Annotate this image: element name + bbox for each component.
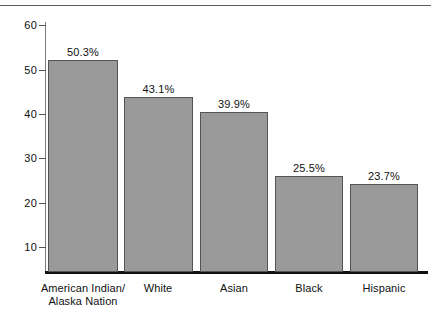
x-label-hispanic: Hispanic [339,282,429,295]
bar-white [124,97,193,272]
bar-value-white: 43.1% [124,83,193,95]
y-tick-label-10: 10 [3,242,37,253]
y-tick-label-30: 30 [3,153,37,164]
y-tick-20 [39,203,46,204]
y-tick-60 [39,25,46,26]
y-tick-label-60-wrap: 60 [0,20,37,31]
y-tick-30 [39,158,46,159]
y-tick-label-50-wrap: 50 [0,65,37,76]
bar-hispanic [350,184,418,272]
y-tick-label-20-wrap: 20 [0,198,37,209]
y-tick-label-60: 60 [3,20,37,31]
bar-black [275,176,343,272]
bar-american-indian-alaska-nation [48,60,118,272]
y-axis-line [45,22,46,273]
y-tick-label-30-wrap: 30 [0,153,37,164]
y-tick-50 [39,70,46,71]
x-label-line-2: Alaska Nation [33,295,133,308]
bar-value-hispanic: 23.7% [350,170,418,182]
bar-value-american-indian-alaska-nation: 50.3% [48,46,118,58]
y-tick-label-20: 20 [3,198,37,209]
bar-value-asian: 39.9% [200,98,268,110]
y-tick-label-10-wrap: 10 [0,242,37,253]
y-tick-label-40: 40 [3,109,37,120]
y-tick-label-50: 50 [3,65,37,76]
bar-asian [200,112,268,272]
y-tick-label-40-wrap: 40 [0,109,37,120]
bar-chart-figure: 10 20 30 40 50 60 [0,0,431,313]
x-label-line-1: Hispanic [339,282,429,295]
plot-area: 10 20 30 40 50 60 [0,0,431,313]
bar-value-black: 25.5% [275,162,343,174]
y-tick-40 [39,114,46,115]
y-tick-10 [39,247,46,248]
